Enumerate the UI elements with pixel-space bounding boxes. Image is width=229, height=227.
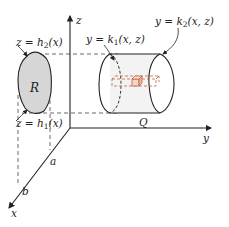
y-axis-label: y xyxy=(203,133,209,144)
right-surface-label: y = k2(x, z) xyxy=(155,16,214,29)
x-tick-b: b xyxy=(22,186,29,197)
region-r-label: R xyxy=(30,82,39,94)
z-axis-label: z xyxy=(76,15,82,26)
lower-boundary-label: z = h1(x) xyxy=(16,118,63,131)
x-axis-label: x xyxy=(11,208,17,219)
solid-q-label: Q xyxy=(139,117,148,128)
left-surface-label: y = k1(x, z) xyxy=(86,34,145,47)
upper-boundary-label: z = h2(x) xyxy=(16,37,63,50)
x-tick-a: a xyxy=(50,156,56,167)
